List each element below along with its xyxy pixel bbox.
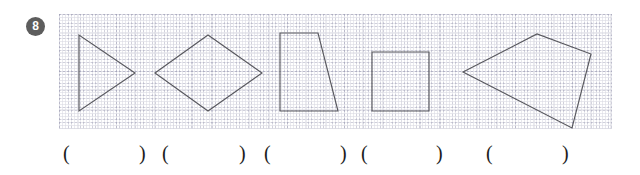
shape-rhombus — [155, 35, 262, 111]
shapes-canvas — [59, 14, 612, 129]
answer-5-close-paren: ) — [562, 140, 569, 166]
answer-5-open-paren: ( — [486, 140, 493, 166]
question-number-badge: 8 — [26, 17, 45, 36]
shape-square — [372, 52, 429, 111]
answer-4-close-paren: ) — [436, 140, 443, 166]
shape-trapezoid — [280, 33, 338, 111]
dotted-grid-panel — [59, 14, 612, 129]
answer-3-close-paren: ) — [340, 140, 347, 166]
answer-2-open-paren: ( — [162, 140, 169, 166]
answer-2-close-paren: ) — [239, 140, 246, 166]
answer-1-close-paren: ) — [139, 140, 146, 166]
answer-3-open-paren: ( — [264, 140, 271, 166]
shape-quadrilateral — [463, 34, 591, 128]
answer-4-open-paren: ( — [361, 140, 368, 166]
shape-triangle — [79, 35, 135, 111]
answer-1-open-paren: ( — [63, 140, 70, 166]
answer-parentheses-row: ( ) ( ) ( ) ( ) ( ) — [0, 140, 640, 170]
worksheet-page: 8 ( ) ( ) ( ) ( ) ( ) — [0, 0, 640, 175]
